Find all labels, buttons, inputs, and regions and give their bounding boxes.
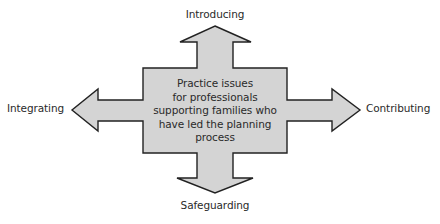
center-text-line: Practice issues bbox=[177, 77, 253, 91]
arrow-label-contributing: Contributing bbox=[366, 102, 430, 114]
arrow-label-safeguarding: Safeguarding bbox=[0, 199, 430, 211]
four-way-arrow-diagram: Introducing Integrating Contributing Saf… bbox=[0, 0, 440, 224]
center-text-line: for professionals bbox=[172, 91, 257, 105]
center-text-line: supporting families who bbox=[153, 104, 277, 118]
arrow-label-integrating: Integrating bbox=[7, 102, 64, 114]
center-text-line: process bbox=[195, 131, 235, 145]
arrow-label-introducing: Introducing bbox=[0, 8, 430, 20]
center-text: Practice issues for professionals suppor… bbox=[150, 72, 280, 150]
center-text-line: have led the planning bbox=[159, 118, 272, 132]
